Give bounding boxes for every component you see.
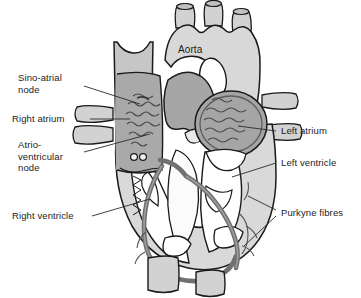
subclavian-rim (233, 9, 249, 15)
pulmonary-vein-upper (262, 93, 298, 110)
av-node-circle-right (140, 154, 147, 161)
vena-cava-branch-upper (75, 106, 113, 123)
label-right-ventricle: Right ventricle (12, 210, 74, 222)
label-right-atrium: Right atrium (12, 113, 64, 125)
right-atrium-body (115, 72, 163, 173)
label-atrio-ventricular-node: Atrio- ventricular node (18, 139, 63, 174)
label-left-atrium: Left atrium (281, 125, 327, 137)
inferior-vessel-stump-left (148, 256, 179, 293)
label-aorta: Aorta (178, 44, 202, 56)
heart-diagram: Sino-atrial node Right atrium Atrio- ven… (0, 0, 361, 298)
inferior-vessel-stump-right (196, 270, 225, 297)
brachiocephalic-rim (177, 4, 194, 10)
label-left-ventricle: Left ventricle (281, 157, 336, 169)
label-sino-atrial-node: Sino-atrial node (18, 72, 62, 95)
vena-cava-branch-lower (73, 126, 113, 144)
label-purkyne-fibres: Purkyne fibres (281, 207, 343, 219)
av-node-circle-left (131, 154, 138, 161)
carotid-rim (206, 1, 222, 7)
